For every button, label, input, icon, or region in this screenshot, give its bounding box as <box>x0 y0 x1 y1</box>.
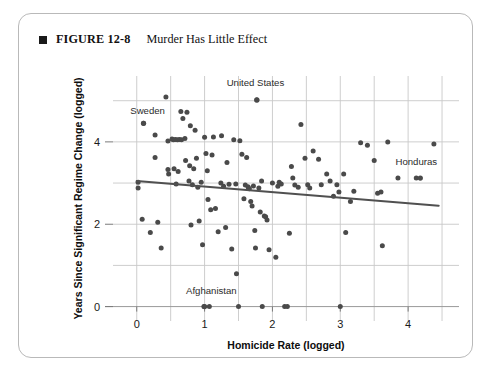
data-point <box>265 218 270 223</box>
data-point <box>256 186 261 191</box>
data-point <box>260 304 265 309</box>
data-point <box>259 179 264 184</box>
data-point <box>136 186 141 191</box>
data-point <box>431 141 436 146</box>
data-point <box>200 242 205 247</box>
data-point <box>211 134 216 139</box>
data-point <box>184 110 189 115</box>
data-point <box>194 156 199 161</box>
data-point <box>210 153 215 158</box>
data-point <box>231 137 236 142</box>
data-point <box>285 304 290 309</box>
data-point <box>358 140 363 145</box>
data-point <box>298 122 303 127</box>
data-point <box>302 156 307 161</box>
data-point <box>236 304 241 309</box>
scatter-plot-svg: 01234024 United StatesSwedenHondurasAfgh… <box>19 14 474 359</box>
data-point <box>341 172 346 177</box>
data-point <box>227 182 232 187</box>
data-point <box>166 172 171 177</box>
data-point <box>237 138 242 143</box>
tick-labels: 01234024 <box>94 136 411 330</box>
data-point <box>273 255 278 260</box>
figure-card: FIGURE 12-8 Murder Has Little Effect 012… <box>18 13 473 358</box>
data-point <box>372 158 377 163</box>
data-point <box>296 185 301 190</box>
data-point <box>197 218 202 223</box>
data-point <box>289 164 294 169</box>
data-point <box>328 179 333 184</box>
x-tick-label: 0 <box>134 318 140 330</box>
x-tick-label: 1 <box>202 318 208 330</box>
chart-plot-area: 01234024 United StatesSwedenHondurasAfgh… <box>19 14 474 359</box>
data-point <box>287 231 292 236</box>
data-point <box>159 246 164 251</box>
data-point <box>189 223 194 228</box>
data-point <box>172 166 177 171</box>
data-point <box>258 209 263 214</box>
data-point <box>202 135 207 140</box>
data-point <box>155 220 160 225</box>
tick-marks <box>105 142 408 312</box>
data-point <box>229 246 234 251</box>
data-point <box>251 183 256 188</box>
data-point <box>395 176 400 181</box>
data-point <box>316 157 321 162</box>
data-point <box>205 168 210 173</box>
y-tick-label: 0 <box>94 301 100 313</box>
y-tick-label: 2 <box>94 218 100 230</box>
data-point <box>153 155 158 160</box>
data-point <box>336 190 341 195</box>
data-point <box>224 160 229 165</box>
annotation-label: United States <box>227 77 285 88</box>
data-point <box>203 151 208 156</box>
data-point <box>191 166 196 171</box>
y-axis-title: Years Since Significant Regime Change (l… <box>72 77 84 319</box>
data-point <box>270 181 275 186</box>
point-annotations: United StatesSwedenHondurasAfghanistan <box>130 77 437 296</box>
data-point <box>233 181 238 186</box>
data-point <box>348 199 353 204</box>
data-point <box>207 304 212 309</box>
data-point <box>248 199 253 204</box>
data-point <box>378 190 383 195</box>
data-point <box>385 139 390 144</box>
data-point <box>208 207 213 212</box>
data-point <box>223 225 228 230</box>
data-point <box>213 206 218 211</box>
y-tick-label: 4 <box>94 136 100 148</box>
data-point <box>163 95 168 100</box>
data-point <box>239 152 244 157</box>
data-point <box>380 243 385 248</box>
data-point <box>279 181 284 186</box>
data-point <box>319 182 324 187</box>
data-point <box>334 182 339 187</box>
data-point <box>365 143 370 148</box>
data-point <box>250 204 255 209</box>
data-point <box>178 109 183 114</box>
data-point <box>176 169 181 174</box>
annotated-data-point <box>254 97 259 102</box>
data-point <box>324 172 329 177</box>
data-point <box>219 133 224 138</box>
data-point <box>188 123 193 128</box>
data-point <box>187 163 192 168</box>
data-point <box>140 217 145 222</box>
data-point <box>267 247 272 252</box>
data-point <box>338 304 343 309</box>
data-point <box>307 186 312 191</box>
annotation-label: Honduras <box>395 156 437 167</box>
annotation-label: Afghanistan <box>186 285 237 296</box>
annotated-data-point <box>418 176 423 181</box>
data-point <box>216 229 221 234</box>
data-point <box>148 230 153 235</box>
data-point <box>180 116 185 121</box>
x-tick-label: 3 <box>337 318 343 330</box>
data-point <box>311 148 316 153</box>
data-point <box>234 271 239 276</box>
x-tick-label: 4 <box>405 318 411 330</box>
data-point <box>244 155 249 160</box>
data-point <box>193 128 198 133</box>
data-point <box>253 246 258 251</box>
axis-titles: Homicide Rate (logged)Years Since Signif… <box>72 77 345 350</box>
